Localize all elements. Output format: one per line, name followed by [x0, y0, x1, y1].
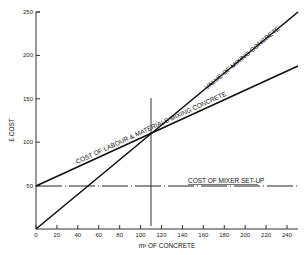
y-tick-label: 200	[23, 52, 34, 58]
x-tick-label: 240	[282, 232, 293, 238]
x-tick-label: 60	[95, 232, 102, 238]
x-tick-label: 200	[240, 232, 251, 238]
y-tick-label: 150	[23, 96, 34, 102]
x-ticks: 020406080100120140160180200220240	[34, 225, 292, 238]
x-tick-label: 120	[157, 232, 168, 238]
y-tick-label: 50	[26, 183, 33, 189]
x-tick-label: 0	[34, 232, 38, 238]
labour-cost-line	[36, 66, 298, 186]
x-tick-label: 80	[116, 232, 123, 238]
y-tick-label: 250	[23, 9, 34, 15]
x-tick-label: 180	[219, 232, 230, 238]
y-tick-label: 100	[23, 139, 34, 145]
chart: 50100150200250 0204060801001201401601802…	[0, 0, 307, 255]
x-axis-label: m³ OF CONCRETE	[139, 242, 196, 249]
x-tick-label: 40	[74, 232, 81, 238]
x-tick-label: 140	[177, 232, 188, 238]
x-tick-label: 160	[198, 232, 209, 238]
x-tick-label: 20	[54, 232, 61, 238]
x-tick-label: 220	[261, 232, 272, 238]
x-tick-label: 100	[136, 232, 147, 238]
y-ticks: 50100150200250	[23, 9, 40, 189]
y-axis-label: £ COST	[8, 118, 15, 142]
value-line-label: VALUE OF MIXING CONCRETE	[203, 24, 281, 90]
setup-cost-label: COST OF MIXER SET-UP	[188, 177, 264, 184]
